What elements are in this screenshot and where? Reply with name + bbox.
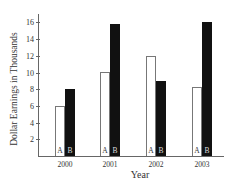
bar-label: B [65,146,75,155]
x-tick-label: 2003 [187,160,217,169]
bar-label: B [110,146,120,155]
x-axis-label: Year [120,169,160,180]
bar-a-2003: A [192,87,202,156]
bar-b-2003: B [202,22,212,156]
bar-label: B [156,146,166,155]
bar-a-2002: A [146,56,156,156]
bar-chart: Dollar Earnings in Thousands 24681012141… [0,0,234,184]
y-tick-label: 8 [22,85,34,94]
y-tick [36,22,40,23]
y-tick [36,89,40,90]
y-tick-label: 6 [22,102,34,111]
y-tick-label: 4 [22,119,34,128]
y-tick [36,56,40,57]
y-tick [36,39,40,40]
y-tick [36,73,40,74]
x-tick-label: 2001 [95,160,125,169]
bar-label: A [56,146,64,155]
bar-label: A [147,146,155,155]
y-tick [36,123,40,124]
x-tick-label: 2002 [141,160,171,169]
bar-label: A [101,146,109,155]
bar-b-2001: B [110,24,120,156]
bar-a-2001: A [100,72,110,156]
bar-b-2002: B [156,81,166,156]
y-tick-label: 14 [22,35,34,44]
y-axis [38,14,39,156]
y-tick-label: 2 [22,135,34,144]
x-axis [38,156,224,157]
bar-a-2000: A [55,106,65,156]
bar-b-2000: B [65,89,75,156]
y-tick [36,139,40,140]
bar-label: B [202,146,212,155]
bar-label: A [193,146,201,155]
y-axis-label: Dollar Earnings in Thousands [9,19,19,159]
y-tick [36,106,40,107]
y-tick-label: 10 [22,69,34,78]
y-tick-label: 16 [22,18,34,27]
y-tick-label: 12 [22,52,34,61]
x-tick-label: 2000 [50,160,80,169]
